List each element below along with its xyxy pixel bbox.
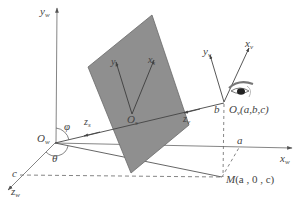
point-c-label: c	[12, 168, 17, 179]
world-x-axis-label: xw	[280, 153, 290, 166]
world-x-axis	[55, 143, 292, 148]
projection-plane	[88, 15, 189, 173]
screen-origin-label: Os	[127, 114, 138, 127]
viewer-y-axis-label: yv	[203, 46, 211, 59]
screen-y-axis-label: ys	[111, 57, 118, 69]
dashed-ov-to-m	[223, 104, 224, 177]
dashed-c-to-m	[20, 175, 222, 177]
point-m-label: M(a , 0 , c)	[226, 174, 274, 185]
diagram-canvas: yw xw zw Ow φ θ zs ys xs Os zv yv xv Ov(…	[0, 0, 299, 203]
screen-z-axis-label: zs	[84, 117, 91, 129]
viewer-x-axis	[224, 48, 249, 102]
eye-icon	[229, 82, 253, 97]
viewer-y-axis	[210, 55, 224, 102]
point-a-label: a	[237, 135, 243, 146]
theta-label: θ	[52, 153, 57, 164]
viewer-x-axis-label: xv	[245, 38, 253, 51]
world-origin-label: Ow	[37, 133, 50, 146]
point-b-label: b	[214, 104, 220, 115]
world-y-axis	[56, 8, 57, 143]
phi-label: φ	[64, 121, 70, 132]
zs-axis-arrow	[84, 132, 100, 136]
viewer-origin-label: Ov(a,b,c)	[229, 104, 269, 117]
screen-x-axis-label: xs	[148, 55, 155, 67]
viewer-z-axis-label: zv	[183, 114, 190, 126]
world-y-axis-label: yw	[40, 6, 50, 19]
world-z-axis-label: zw	[11, 186, 20, 199]
